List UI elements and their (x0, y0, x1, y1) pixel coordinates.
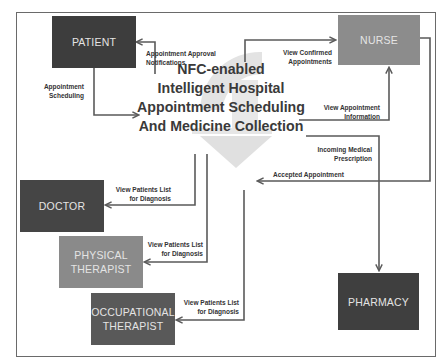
edge-label-pt-patients: View Patients List for Diagnosis (140, 240, 203, 258)
edge-label-ot-patients: View Patients List for Diagnosis (176, 298, 239, 316)
edge-label-view-confirmed: View Confirmed Appointments (270, 48, 332, 66)
node-doctor: DOCTOR (20, 180, 104, 232)
edge-label-incoming-prescription: Incoming Medical Prescription (300, 145, 372, 163)
node-patient-label: PATIENT (72, 35, 116, 49)
edge-label-accepted-appointment: Accepted Appointment (273, 170, 344, 179)
node-nurse: NURSE (338, 15, 420, 65)
node-physical-therapist-label: PHYSICAL THERAPIST (71, 248, 132, 276)
node-physical-therapist: PHYSICAL THERAPIST (59, 236, 143, 288)
edge-label-doctor-patients: View Patients List for Diagnosis (108, 185, 171, 203)
node-pharmacy-label: PHARMACY (348, 295, 409, 309)
node-pharmacy: PHARMACY (338, 273, 419, 330)
edge-label-view-appointment-info: View Appointment Information (310, 103, 380, 121)
node-doctor-label: DOCTOR (39, 199, 86, 213)
node-occupational-therapist: OCCUPATIONAL THERAPIST (91, 293, 175, 345)
node-nurse-label: NURSE (360, 33, 398, 47)
diagram-title: NFC-enabled Intelligent Hospital Appoint… (118, 60, 324, 136)
edge-label-appointment-scheduling: Appointment Scheduling (38, 82, 84, 100)
node-patient: PATIENT (52, 16, 136, 68)
node-occupational-therapist-label: OCCUPATIONAL THERAPIST (91, 305, 175, 333)
edge-label-approval-notifications: Appointment Approval Notifications (146, 49, 216, 67)
